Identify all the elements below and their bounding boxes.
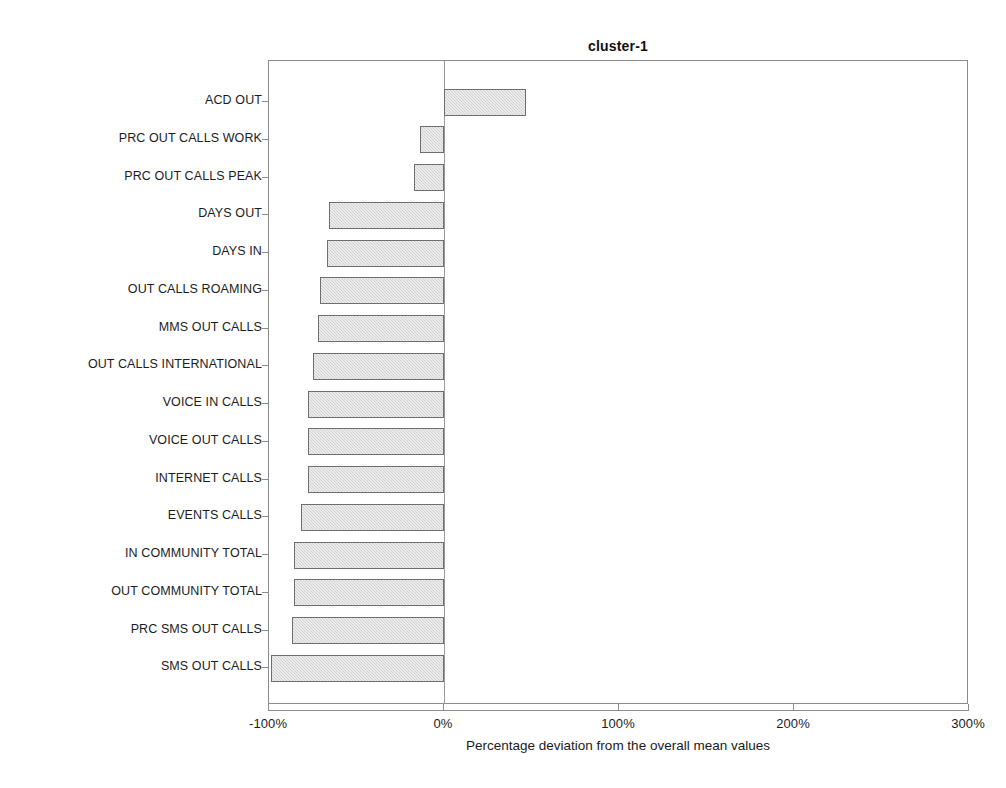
y-tick-label: VOICE IN CALLS <box>163 396 262 409</box>
bar-out-community-total <box>294 579 445 606</box>
x-tick-mark <box>968 704 969 711</box>
y-tick-label: DAYS IN <box>212 245 262 258</box>
chart-figure: cluster-1 ACD OUTPRC OUT CALLS WORKPRC O… <box>0 0 1006 788</box>
bar-in-community-total <box>294 542 445 569</box>
x-tick-mark <box>443 704 444 711</box>
y-tick-label: OUT CALLS INTERNATIONAL <box>88 358 262 371</box>
x-tick-mark <box>793 704 794 711</box>
bar-voice-out-calls <box>308 428 445 455</box>
x-tick-mark <box>618 704 619 711</box>
y-tick-mark <box>262 139 268 140</box>
y-tick-label: PRC OUT CALLS PEAK <box>124 170 262 183</box>
zero-reference-line <box>444 61 445 703</box>
y-tick-label: ACD OUT <box>205 94 262 107</box>
y-tick-mark <box>262 214 268 215</box>
y-tick-mark <box>262 554 268 555</box>
bar-prc-out-calls-work <box>420 126 445 153</box>
x-tick-label: 300% <box>951 716 985 731</box>
y-tick-mark <box>262 252 268 253</box>
x-tick-label: 100% <box>601 716 635 731</box>
y-tick-mark <box>262 592 268 593</box>
y-tick-mark <box>262 403 268 404</box>
y-tick-label: SMS OUT CALLS <box>161 660 262 673</box>
y-tick-label: IN COMMUNITY TOTAL <box>125 547 262 560</box>
y-tick-mark <box>262 630 268 631</box>
y-tick-mark <box>262 290 268 291</box>
bar-prc-out-calls-peak <box>414 164 444 191</box>
x-tick-mark <box>268 704 269 711</box>
x-tick-label: -100% <box>249 716 287 731</box>
y-tick-label: EVENTS CALLS <box>168 509 262 522</box>
bar-out-calls-international <box>313 353 444 380</box>
y-tick-mark <box>262 479 268 480</box>
bar-voice-in-calls <box>308 391 445 418</box>
y-tick-label: DAYS OUT <box>198 207 262 220</box>
plot-area <box>268 60 968 704</box>
y-tick-mark <box>262 177 268 178</box>
y-tick-label: VOICE OUT CALLS <box>149 434 262 447</box>
bar-days-out <box>329 202 445 229</box>
y-tick-label: PRC OUT CALLS WORK <box>119 132 262 145</box>
y-tick-mark <box>262 328 268 329</box>
x-tick-label: 200% <box>776 716 810 731</box>
bar-acd-out <box>444 89 526 116</box>
bar-days-in <box>327 240 444 267</box>
y-tick-mark <box>262 101 268 102</box>
y-tick-mark <box>262 516 268 517</box>
y-tick-mark <box>262 365 268 366</box>
x-tick-label: 0% <box>434 716 453 731</box>
chart-title: cluster-1 <box>268 38 968 54</box>
y-tick-label: OUT CALLS ROAMING <box>128 283 262 296</box>
y-tick-label: INTERNET CALLS <box>155 472 262 485</box>
bar-out-calls-roaming <box>320 277 444 304</box>
y-tick-mark <box>262 667 268 668</box>
bar-mms-out-calls <box>318 315 444 342</box>
x-axis-title: Percentage deviation from the overall me… <box>268 738 968 753</box>
y-tick-label: PRC SMS OUT CALLS <box>131 623 262 636</box>
y-tick-label: OUT COMMUNITY TOTAL <box>111 585 262 598</box>
bar-internet-calls <box>308 466 445 493</box>
bar-events-calls <box>301 504 445 531</box>
bar-prc-sms-out-calls <box>292 617 444 644</box>
y-tick-label: MMS OUT CALLS <box>159 321 262 334</box>
bar-sms-out-calls <box>271 655 444 682</box>
y-tick-mark <box>262 441 268 442</box>
